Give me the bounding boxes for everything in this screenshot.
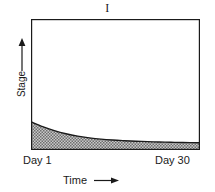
x-axis-label-group: Time [63,172,120,188]
x-axis-right-arrow-icon [94,176,120,185]
plot-background [31,19,200,150]
x-axis-title: Time [63,173,87,187]
chart-figure: I Stage Day [0,0,215,192]
x-axis-tick-end: Day 30 [155,153,190,167]
y-axis-label-group: Stage [10,36,34,126]
x-axis-tick-start: Day 1 [23,153,52,167]
plot-svg [31,19,200,150]
plot-area [31,19,200,150]
chart-title: I [0,1,215,15]
y-axis-title: Stage [14,56,30,112]
